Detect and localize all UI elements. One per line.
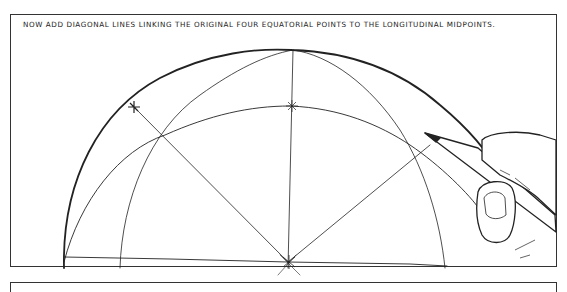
longitude-arc-left bbox=[120, 50, 293, 268]
hand-holding-pencil bbox=[425, 132, 556, 258]
central-meridian bbox=[288, 50, 293, 268]
cross-mark-central bbox=[286, 100, 298, 112]
diagonal-line-lower bbox=[280, 255, 300, 275]
next-comic-panel bbox=[10, 282, 557, 292]
longitude-arc-right bbox=[293, 50, 445, 268]
diagonal-line-left bbox=[134, 107, 288, 262]
pencil-tip-icon bbox=[425, 133, 440, 142]
outer-dome-outline bbox=[64, 50, 500, 268]
cross-marks bbox=[128, 100, 298, 269]
diagonal-line-right bbox=[288, 145, 430, 262]
equator-line bbox=[64, 257, 447, 266]
wrist-line bbox=[515, 240, 535, 258]
latitude-arc bbox=[64, 106, 480, 262]
thumbnail bbox=[484, 192, 506, 219]
